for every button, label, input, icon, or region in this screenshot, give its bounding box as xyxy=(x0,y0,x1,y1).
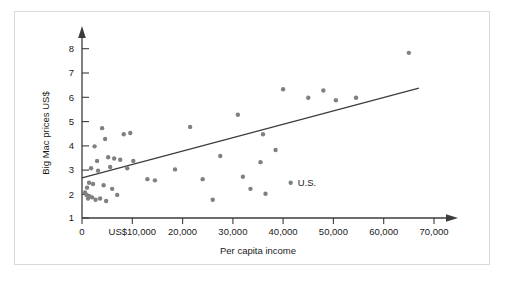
x-tick-label-40000: 40,000 xyxy=(269,226,298,237)
data-point xyxy=(261,132,265,136)
y-tick-label-4: 4 xyxy=(69,140,74,151)
data-point xyxy=(87,181,91,185)
y-axis-title: Big Mac prices US$ xyxy=(40,91,51,175)
regression-line xyxy=(82,88,419,178)
data-point xyxy=(273,148,277,152)
y-tick-label-3: 3 xyxy=(69,164,74,175)
y-tick-label-2: 2 xyxy=(69,189,74,200)
y-tick-label-6: 6 xyxy=(69,92,74,103)
figure-root: 8 7 6 5 4 3 2 1 0 US$10,000 20,000 30,00… xyxy=(0,0,510,281)
data-point xyxy=(211,198,215,202)
data-point xyxy=(407,51,411,55)
data-point xyxy=(321,88,325,92)
data-point xyxy=(104,199,108,203)
data-point xyxy=(334,98,338,102)
data-point xyxy=(110,187,114,191)
data-point xyxy=(108,165,112,169)
x-tick-label-60000: 60,000 xyxy=(369,226,398,237)
x-tick-label-70000: 70,000 xyxy=(419,226,448,237)
data-point xyxy=(112,156,116,160)
data-point xyxy=(131,159,135,163)
x-tick-label-30000: 30,000 xyxy=(218,226,247,237)
data-point xyxy=(281,87,285,91)
y-tick-label-7: 7 xyxy=(69,67,74,78)
data-point xyxy=(95,159,99,163)
x-tick-label-10000: US$10,000 xyxy=(109,226,157,237)
data-points-group xyxy=(83,51,411,204)
data-point xyxy=(101,183,105,187)
annotations-group: U.S. xyxy=(298,177,316,188)
data-point xyxy=(145,177,149,181)
data-point xyxy=(248,187,252,191)
data-point xyxy=(288,181,292,185)
trend-line xyxy=(82,88,419,178)
data-point xyxy=(125,166,129,170)
data-point xyxy=(263,192,267,196)
data-point xyxy=(258,160,262,164)
data-point xyxy=(122,132,126,136)
x-axis-ticks xyxy=(82,218,434,224)
data-point xyxy=(92,144,96,148)
data-point xyxy=(106,155,110,159)
data-point xyxy=(100,126,104,130)
data-point xyxy=(306,96,310,100)
data-point xyxy=(91,182,95,186)
data-point xyxy=(118,158,122,162)
x-tick-label-50000: 50,000 xyxy=(319,226,348,237)
annotation-label-us: U.S. xyxy=(298,177,316,188)
data-point xyxy=(200,177,204,181)
y-tick-label-8: 8 xyxy=(69,43,74,54)
data-point xyxy=(103,137,107,141)
y-tick-label-1: 1 xyxy=(69,212,74,223)
data-point xyxy=(188,125,192,129)
data-point xyxy=(354,96,358,100)
data-point xyxy=(96,168,100,172)
x-tick-label-20000: 20,000 xyxy=(168,226,197,237)
data-point xyxy=(115,193,119,197)
x-axis xyxy=(82,214,458,222)
data-point xyxy=(218,154,222,158)
data-point xyxy=(128,131,132,135)
data-point xyxy=(85,185,89,189)
x-tick-label-0: 0 xyxy=(79,226,84,237)
data-point xyxy=(241,175,245,179)
data-point xyxy=(153,178,157,182)
data-point xyxy=(98,196,102,200)
data-point xyxy=(173,167,177,171)
data-point xyxy=(93,198,97,202)
scatter-plot: 8 7 6 5 4 3 2 1 0 US$10,000 20,000 30,00… xyxy=(0,0,510,281)
x-axis-title: Per capita income xyxy=(220,245,296,256)
data-point xyxy=(89,166,93,170)
data-point xyxy=(236,113,240,117)
y-tick-label-5: 5 xyxy=(69,116,74,127)
